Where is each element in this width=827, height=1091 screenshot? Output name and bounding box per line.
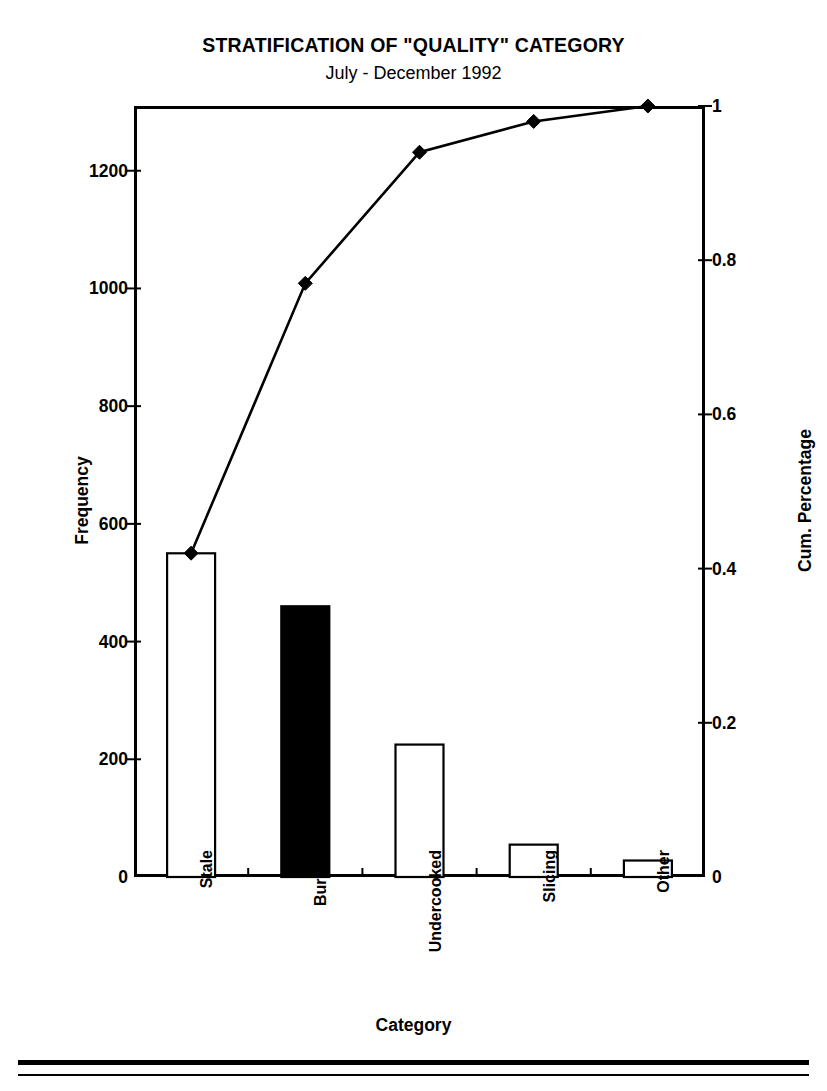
- bar-burned: [281, 606, 329, 877]
- y-axis-right-ticks: 00.20.40.60.81: [712, 106, 772, 877]
- y-axis-left-title: Frequency: [72, 411, 93, 591]
- y-tick-label-right: 0.6: [712, 404, 768, 425]
- y-tick-label-left: 1200: [58, 160, 128, 181]
- x-category-label-undercooked: Undercooked: [427, 850, 445, 1000]
- x-category-label-other: Other: [655, 850, 673, 1000]
- y-axis-right-title: Cum. Percentage: [795, 386, 816, 616]
- x-category-label-burned: Burned: [312, 850, 330, 1000]
- chart-subtitle: July - December 1992: [0, 63, 827, 84]
- y-tick-label-left: 400: [58, 631, 128, 652]
- y-tick-label-right: 1: [712, 96, 768, 117]
- y-tick-label-right: 0.2: [712, 712, 768, 733]
- cumulative-line: [191, 106, 648, 553]
- bar-stale: [167, 553, 215, 877]
- y-tick-label-left: 1000: [58, 278, 128, 299]
- x-category-label-slicing: Slicing: [541, 850, 559, 1000]
- y-tick-label-left: 0: [58, 867, 128, 888]
- pareto-chart-page: STRATIFICATION OF "QUALITY" CATEGORY Jul…: [0, 0, 827, 1091]
- y-tick-label-right: 0.4: [712, 558, 768, 579]
- y-tick-label-right: 0: [712, 867, 768, 888]
- cumulative-marker: [641, 99, 655, 113]
- y-tick-label-left: 800: [58, 396, 128, 417]
- y-tick-label-right: 0.8: [712, 250, 768, 271]
- chart-title: STRATIFICATION OF "QUALITY" CATEGORY: [0, 34, 827, 57]
- y-tick-label-left: 600: [58, 513, 128, 534]
- y-tick-label-left: 200: [58, 749, 128, 770]
- x-axis-title: Category: [0, 1015, 827, 1036]
- cumulative-marker: [527, 114, 541, 128]
- x-category-label-stale: Stale: [198, 850, 216, 1000]
- footer-rule-thick: [18, 1060, 809, 1065]
- footer-rule-thin: [18, 1074, 809, 1076]
- chart-canvas: [134, 106, 705, 877]
